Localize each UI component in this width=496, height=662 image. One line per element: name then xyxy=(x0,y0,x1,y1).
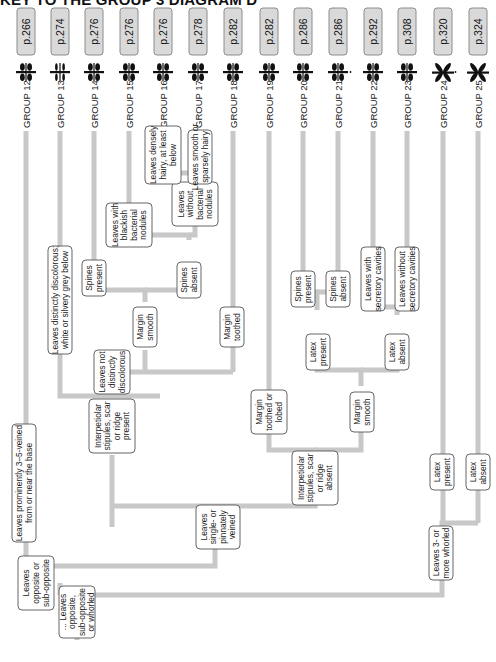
node-text: Leaves densely xyxy=(148,125,158,184)
key-node-stipules-present[interactable]: Interpetiolarstipules, scaror ridgeprese… xyxy=(89,399,135,453)
group-label[interactable]: GROUP 20 xyxy=(298,80,309,128)
key-node-margin-smooth-b[interactable]: Marginsmooth xyxy=(350,392,374,432)
node-text: stipules, scar xyxy=(102,401,112,450)
whorled-leaves-latex-icon xyxy=(432,62,456,83)
node-text: veined xyxy=(227,514,237,539)
group-label[interactable]: GROUP 15 xyxy=(124,80,135,128)
key-node-whorled[interactable]: Leaves 3- ormore whorled xyxy=(429,526,453,580)
page-number: p.308 xyxy=(401,18,413,44)
page-badge[interactable]: p.274 xyxy=(51,8,69,55)
page-badge[interactable]: p.276 xyxy=(85,8,103,55)
key-node-veined-3-5[interactable]: Leaves prominently 3–5-veinedfrom or nea… xyxy=(12,424,36,542)
node-text: present xyxy=(303,274,313,303)
key-node-spines-absent-a[interactable]: Spinesabsent xyxy=(177,262,201,298)
opposite-leaves-icon xyxy=(188,63,208,81)
group-label[interactable]: GROUP 16 xyxy=(158,80,169,128)
node-text: pinnately xyxy=(218,509,228,543)
page-badge[interactable]: p.282 xyxy=(224,8,242,55)
node-text: absent xyxy=(324,465,334,491)
page-badge[interactable]: p.292 xyxy=(364,8,382,55)
group-label[interactable]: GROUP 25 xyxy=(473,80,484,128)
node-text: absent xyxy=(397,339,407,365)
node-text: Latex xyxy=(468,461,478,482)
node-text: Leaves 3- or xyxy=(431,530,441,577)
key-node-not-discolorous[interactable]: Leaves notdistinctlydiscolorous xyxy=(94,350,130,394)
group-label[interactable]: GROUP 21 xyxy=(333,80,344,128)
key-node-stipules-absent[interactable]: Interpetiolarstipules, scaror ridgeabsen… xyxy=(292,451,338,505)
page-number: p.274 xyxy=(54,18,66,44)
page-badge[interactable]: p.276 xyxy=(120,8,138,55)
group-label[interactable]: GROUP 19 xyxy=(264,80,275,128)
node-text: smooth xyxy=(362,398,372,426)
group-label[interactable]: GROUP 24 xyxy=(438,80,449,128)
key-node-spines-absent-b[interactable]: Spinesabsent xyxy=(326,271,350,307)
group-label[interactable]: GROUP 18 xyxy=(228,80,239,128)
key-node-root[interactable]: ... Leavesopposite,sub-oppositeor whorle… xyxy=(58,586,97,638)
key-node-margin-smooth-a[interactable]: Marginsmooth xyxy=(133,307,157,347)
page-badge[interactable]: p.276 xyxy=(154,8,172,55)
page-badge[interactable]: p.308 xyxy=(398,8,416,55)
node-text: or ridge xyxy=(112,411,122,440)
node-text: stipules, scar xyxy=(305,453,315,502)
page-badge[interactable]: p.286 xyxy=(329,8,347,55)
key-node-spines-present-a[interactable]: Spinespresent xyxy=(82,260,106,296)
node-text: Leaves with xyxy=(363,257,373,302)
page-badge[interactable]: p.324 xyxy=(469,8,487,55)
group-label[interactable]: GROUP 22 xyxy=(368,80,379,128)
key-node-single-pinnate[interactable]: Leavessingle- orpinnatelyveined xyxy=(196,505,240,549)
page-number: p.282 xyxy=(227,18,239,44)
node-text: Spines xyxy=(328,276,338,302)
group-label[interactable]: GROUP 13 xyxy=(55,80,66,128)
key-node-opposite[interactable]: Leavesopposite orsub-opposite xyxy=(18,556,54,610)
node-text: Margin xyxy=(254,399,264,425)
group-label[interactable]: GROUP 12 xyxy=(21,80,32,128)
key-node-latex-absent-c[interactable]: Latexabsent xyxy=(466,454,490,490)
group-label[interactable]: GROUP 23 xyxy=(402,80,413,128)
node-text: secretory cavities xyxy=(407,247,417,312)
opposite-leaves-icon xyxy=(119,63,139,81)
node-text: Leaves prominently 3–5-veined xyxy=(14,424,24,541)
key-node-secretory-without[interactable]: Leaves withoutsecretory cavities xyxy=(395,247,419,312)
node-text: Latex xyxy=(308,341,318,362)
key-node-latex-absent-b[interactable]: Latexabsent xyxy=(385,334,409,370)
page-number: p.276 xyxy=(123,18,135,44)
key-node-bacterial-nodules[interactable]: Leaves withblackishbacterialnodules xyxy=(106,203,152,248)
page-badge[interactable]: p.266 xyxy=(17,8,35,55)
node-text: Leaves not xyxy=(97,351,107,393)
opposite-leaves-latex-icon xyxy=(328,63,351,81)
page-badge[interactable]: p.282 xyxy=(260,8,278,55)
opposite-leaves-icon xyxy=(397,63,417,81)
key-node-densely-hairy[interactable]: Leaves denselyhairy, at leastbelow xyxy=(145,125,181,184)
node-text: sparsely hairy xyxy=(200,130,210,182)
page-badge[interactable]: p.278 xyxy=(189,8,207,55)
key-node-smooth-hairy[interactable]: Leaves smooth orsparsely hairy xyxy=(188,124,212,191)
key-node-discolorous[interactable]: Leaves distinctly discolorous;white or s… xyxy=(48,246,72,354)
node-text: absent xyxy=(478,459,488,485)
group-label[interactable]: GROUP 14 xyxy=(89,80,100,128)
node-text: present xyxy=(94,263,104,292)
opposite-leaves-stipule-icon xyxy=(293,63,313,81)
group-label[interactable]: GROUP 17 xyxy=(193,80,204,128)
node-text: more whorled xyxy=(441,527,451,578)
key-node-latex-present-c[interactable]: Latexpresent xyxy=(430,454,454,490)
key-node-secretory-with[interactable]: Leaves withsecretory cavities xyxy=(361,247,385,312)
key-node-spines-present-b[interactable]: Spinespresent xyxy=(291,271,315,307)
key-node-margin-toothed-lobed[interactable]: Margintoothed orlobed xyxy=(251,390,287,434)
node-text: ... Leaves xyxy=(58,594,68,630)
page-number: p.266 xyxy=(20,18,32,44)
node-text: Leaves xyxy=(176,190,186,217)
key-node-latex-present-b[interactable]: Latexpresent xyxy=(306,334,330,370)
opposite-leaves-icon xyxy=(223,63,243,81)
page-badge[interactable]: p.286 xyxy=(294,8,312,55)
node-text: present xyxy=(121,411,131,440)
opposite-leaves-icon xyxy=(259,63,279,81)
page-badge[interactable]: p.320 xyxy=(434,8,452,55)
node-text: Margin xyxy=(222,314,232,340)
node-text: present xyxy=(442,457,452,486)
opposite-leaves-icon xyxy=(153,63,173,81)
connector-line xyxy=(189,226,195,235)
whorled-leaves-icon xyxy=(467,62,489,83)
node-text: Spines xyxy=(293,276,303,302)
page-number: p.278 xyxy=(192,18,204,44)
key-node-margin-toothed-a[interactable]: Margintoothed xyxy=(220,307,244,347)
